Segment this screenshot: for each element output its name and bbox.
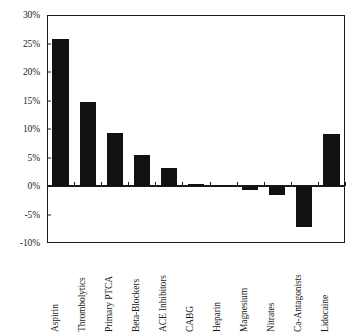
x-tick-label: Beta-Blockers: [131, 279, 142, 332]
bar: [242, 186, 258, 190]
y-tick-label: 0%: [28, 181, 40, 191]
x-tick-mark: [101, 182, 102, 186]
x-tick-label-wrap: Magnesium: [244, 246, 256, 332]
x-tick-label: Lidocaine: [320, 295, 331, 332]
y-tick-mark: [47, 157, 51, 158]
x-tick-mark: [264, 182, 265, 186]
x-tick-mark: [291, 182, 292, 186]
y-tick-label: 10%: [23, 124, 40, 134]
bar: [296, 186, 312, 227]
bar: [269, 186, 285, 195]
x-tick-label-wrap: Lidocaine: [325, 246, 337, 332]
x-tick-mark: [318, 182, 319, 186]
bar: [215, 186, 231, 187]
x-tick-label: ACE Inhibitors: [158, 275, 169, 332]
bar: [107, 133, 123, 186]
x-tick-label: Aspirin: [50, 304, 61, 332]
x-tick-label: Thrombolytics: [77, 277, 88, 332]
bars-layer: [47, 15, 345, 243]
x-tick-label: Magnesium: [239, 288, 250, 332]
x-tick-label-wrap: Primary PTCA: [109, 246, 121, 332]
x-tick-label-wrap: CABG: [190, 246, 202, 332]
y-tick-mark: [47, 100, 51, 101]
bar: [52, 39, 68, 186]
y-tick-label: 30%: [23, 10, 40, 20]
x-tick-label-wrap: Ca-Antagonists: [298, 246, 310, 332]
x-tick-label-wrap: ACE Inhibitors: [163, 246, 175, 332]
x-tick-mark: [128, 182, 129, 186]
bar: [161, 168, 177, 186]
y-tick-label: -10%: [20, 238, 40, 248]
x-tick-mark: [210, 182, 211, 186]
x-tick-mark: [182, 182, 183, 186]
x-tick-mark: [237, 182, 238, 186]
x-tick-label: Heparin: [212, 302, 223, 332]
x-tick-label-wrap: Aspirin: [55, 246, 67, 332]
x-axis: AspirinThrombolyticsPrimary PTCABeta-Blo…: [47, 246, 345, 333]
y-tick-mark: [47, 214, 51, 215]
x-tick-label: Nitrates: [266, 303, 277, 332]
bar: [323, 134, 339, 186]
bar: [134, 155, 150, 186]
y-tick-label: 25%: [23, 39, 40, 49]
x-tick-mark: [155, 182, 156, 186]
y-tick-mark: [47, 129, 51, 130]
y-tick-mark: [47, 43, 51, 44]
y-tick-label: 5%: [28, 153, 40, 163]
y-axis: 30%25%20%15%10%5%0%-5%-10%: [0, 0, 45, 333]
x-tick-label-wrap: Beta-Blockers: [136, 246, 148, 332]
x-tick-label-wrap: Thrombolytics: [82, 246, 94, 332]
bar: [80, 102, 96, 186]
bar: [188, 184, 204, 186]
y-tick-label: 20%: [23, 67, 40, 77]
y-tick-mark: [47, 72, 51, 73]
x-tick-mark: [74, 182, 75, 186]
y-tick-label: -5%: [24, 210, 40, 220]
x-tick-mark: [345, 182, 346, 186]
x-tick-label: CABG: [185, 306, 196, 332]
x-tick-label: Ca-Antagonists: [293, 274, 304, 332]
chart-figure: 30%25%20%15%10%5%0%-5%-10% AspirinThromb…: [0, 0, 362, 333]
x-tick-label-wrap: Heparin: [217, 246, 229, 332]
x-tick-label: Primary PTCA: [104, 276, 115, 332]
y-tick-label: 15%: [23, 96, 40, 106]
x-tick-label-wrap: Nitrates: [271, 246, 283, 332]
